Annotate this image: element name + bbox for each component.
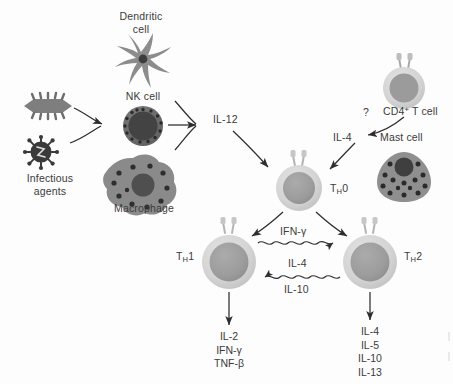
cd4-t-cell-label-main: CD4 bbox=[383, 105, 404, 117]
cd4-t-cell-label-tail: T cell bbox=[409, 105, 438, 117]
dendritic-cell-label-line1: Dendritic bbox=[120, 10, 163, 22]
il4-to-th0-label: IL-4 bbox=[333, 131, 352, 144]
th2-cell-icon bbox=[343, 217, 397, 289]
squiggle-il4-il10 bbox=[265, 276, 340, 279]
th1-cell-icon bbox=[202, 217, 256, 289]
bacterium-icon bbox=[24, 93, 72, 119]
nk-cell-label: NK cell bbox=[106, 90, 180, 103]
question-mark-label: ? bbox=[363, 106, 369, 119]
virus-icon bbox=[23, 135, 59, 170]
dendritic-cell-label-line2: cell bbox=[133, 23, 149, 35]
arrow-pathogens-to-apc bbox=[70, 108, 102, 143]
th2-label-tail: 2 bbox=[416, 250, 422, 262]
dendritic-cell-label: Dendritic cell bbox=[96, 10, 186, 35]
th2-cytokine-list: IL-4 IL-5 IL-10 IL-13 bbox=[335, 325, 405, 379]
dendritic-cell-icon bbox=[115, 33, 171, 88]
infectious-agents-label-line1: Infectious bbox=[27, 172, 73, 184]
th1-cytokine-0: IL-2 bbox=[194, 330, 264, 344]
th2-cytokine-0: IL-4 bbox=[335, 325, 405, 339]
th2-cytokine-3: IL-13 bbox=[335, 366, 405, 380]
cd4-t-cell-label: CD4+ T cell bbox=[383, 104, 438, 118]
th0-label: TH0 bbox=[330, 182, 348, 198]
arrow-il12-to-th0 bbox=[233, 131, 268, 167]
mast-cell-icon bbox=[377, 152, 431, 202]
th0-cell-icon bbox=[276, 150, 322, 211]
th0-label-main: T bbox=[330, 182, 337, 194]
ifn-gamma-cross-label: IFN-γ bbox=[280, 225, 306, 238]
arrow-apc-to-il12 bbox=[168, 101, 196, 150]
th1-cytokine-2: TNF-β bbox=[194, 357, 264, 371]
arrow-th0-to-th1 bbox=[252, 212, 283, 236]
arrow-th0-to-th2 bbox=[316, 212, 347, 236]
th2-cytokine-1: IL-5 bbox=[335, 339, 405, 353]
th2-label-main: T bbox=[404, 250, 411, 262]
scan-artifact bbox=[448, 332, 450, 361]
squiggle-ifn-gamma bbox=[258, 241, 333, 244]
cd4-t-cell-icon bbox=[383, 53, 425, 109]
infectious-agents-label-line2: agents bbox=[34, 185, 66, 197]
diagram-canvas: Dendritic cell NK cell Macrophage Infect… bbox=[0, 0, 453, 384]
macrophage-label: Macrophage bbox=[96, 202, 192, 215]
th0-label-tail: 0 bbox=[342, 182, 348, 194]
mast-cell-label: Mast cell bbox=[380, 131, 423, 144]
th1-cytokine-list: IL-2 IFN-γ TNF-β bbox=[194, 330, 264, 371]
infectious-agents-label: Infectious agents bbox=[8, 172, 92, 197]
th1-label-main: T bbox=[176, 250, 183, 262]
th1-cytokine-1: IFN-γ bbox=[194, 344, 264, 358]
il10-cross-label: IL-10 bbox=[284, 283, 309, 296]
nk-cell-icon bbox=[123, 106, 163, 146]
il12-label: IL-12 bbox=[213, 113, 238, 126]
il4-cross-label: IL-4 bbox=[288, 257, 307, 270]
th2-cytokine-2: IL-10 bbox=[335, 352, 405, 366]
th2-label: TH2 bbox=[404, 250, 422, 266]
th1-label-tail: 1 bbox=[188, 250, 194, 262]
th1-label: TH1 bbox=[176, 250, 194, 266]
arrow-il4-to-th0 bbox=[330, 143, 355, 169]
